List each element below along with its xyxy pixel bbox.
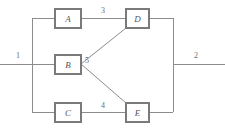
edge-label-4: 4 <box>101 101 105 110</box>
wire-b-to-e-diagonal <box>81 64 126 103</box>
diagram-canvas: A B C D E 1 2 3 4 5 <box>0 0 225 134</box>
node-label-d: D <box>133 14 141 24</box>
node-label-e: E <box>134 108 141 118</box>
node-label-c: C <box>65 108 72 118</box>
edge-label-3: 3 <box>101 6 105 15</box>
node-label-a: A <box>64 14 71 24</box>
edge-label-1: 1 <box>16 51 20 60</box>
edge-label-2: 2 <box>194 51 198 60</box>
node-label-b: B <box>65 60 71 70</box>
diagram-svg: A B C D E 1 2 3 4 5 <box>0 0 225 134</box>
edge-label-5: 5 <box>85 56 89 65</box>
